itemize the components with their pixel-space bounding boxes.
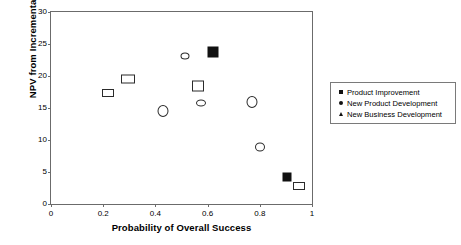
x-axis-tick-label: 0.4 (150, 210, 161, 218)
x-axis-tick-label: 0 (49, 210, 53, 218)
x-axis-tick-mark (155, 204, 156, 207)
y-axis-tick-label: 20 (38, 72, 47, 80)
x-axis-tick-mark (312, 204, 313, 207)
y-axis-tick-mark (48, 12, 51, 13)
x-axis-tick-mark (260, 204, 261, 207)
chart-legend: Product Improvement New Product Developm… (330, 82, 456, 124)
y-axis-tick-label: 30 (38, 8, 47, 16)
legend-item-product-improvement: Product Improvement (335, 87, 452, 97)
data-point-marker (102, 89, 114, 97)
data-point-marker (196, 99, 206, 106)
legend-item-new-product-development: New Product Development (335, 98, 452, 108)
data-point-marker (255, 143, 265, 152)
data-point-marker (246, 96, 257, 108)
data-point-marker (293, 182, 305, 190)
plot-area: 05101520253000.20.40.60.81 (50, 11, 313, 205)
circle-marker-icon (335, 101, 347, 105)
y-axis-tick-label: 15 (38, 104, 47, 112)
x-axis-tick-mark (51, 204, 52, 207)
y-axis-tick-mark (48, 108, 51, 109)
data-point-marker (181, 53, 190, 60)
x-axis-tick-mark (208, 204, 209, 207)
x-axis-tick-mark (103, 204, 104, 207)
y-axis-tick-mark (48, 172, 51, 173)
scatter-chart-figure: NPV from Incremental Sales Probability o… (0, 0, 461, 245)
legend-item-label: New Business Development (347, 110, 442, 119)
data-point-marker (158, 105, 169, 117)
x-axis-tick-label: 0.6 (202, 210, 213, 218)
x-axis-tick-label: 0.8 (254, 210, 265, 218)
x-axis-tick-label: 1 (310, 210, 314, 218)
data-point-marker (192, 80, 204, 91)
legend-item-label: Product Improvement (347, 88, 420, 97)
y-axis-tick-label: 25 (38, 40, 47, 48)
y-axis-tick-label: 5 (43, 168, 47, 176)
x-axis-label: Probability of Overall Success (50, 222, 313, 233)
y-axis-tick-mark (48, 140, 51, 141)
y-axis-tick-label: 10 (38, 136, 47, 144)
y-axis-label: NPV from Incremental Sales (27, 0, 38, 134)
triangle-marker-icon (335, 112, 347, 116)
y-axis-tick-label: 0 (43, 200, 47, 208)
data-point-marker (121, 74, 135, 83)
legend-item-new-business-development: New Business Development (335, 109, 452, 119)
data-point-marker (207, 47, 218, 58)
y-axis-tick-mark (48, 76, 51, 77)
legend-item-label: New Product Development (347, 99, 437, 108)
data-point-marker (283, 173, 292, 182)
square-marker-icon (335, 90, 347, 94)
y-axis-tick-mark (48, 44, 51, 45)
x-axis-tick-label: 0.2 (98, 210, 109, 218)
